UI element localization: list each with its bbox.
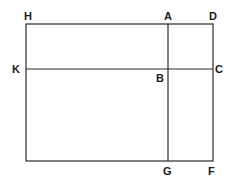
point-label-b: B [156, 73, 164, 84]
outer-rectangle [26, 24, 213, 161]
point-label-a: A [164, 11, 172, 22]
point-label-g: G [163, 166, 172, 177]
point-label-c: C [215, 64, 223, 75]
point-label-d: D [209, 11, 217, 22]
diagram-canvas [0, 0, 232, 184]
point-label-k: K [12, 64, 20, 75]
point-label-h: H [24, 11, 32, 22]
point-label-f: F [208, 166, 215, 177]
